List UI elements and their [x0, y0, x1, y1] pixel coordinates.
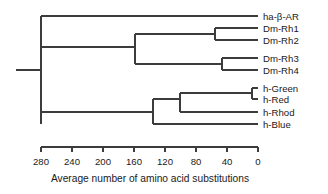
figure-container: ha-β-AR Dm-Rh1 Dm-Rh2 Dm-Rh3 Dm-Rh4 h-Gr… — [0, 0, 328, 194]
tick-label-40: 40 — [222, 156, 233, 167]
leaf-label-Dm-Rh4: Dm-Rh4 — [263, 65, 299, 76]
phylogenetic-tree: ha-β-AR Dm-Rh1 Dm-Rh2 Dm-Rh3 Dm-Rh4 h-Gr… — [0, 0, 328, 194]
leaf-label-h-Blue: h-Blue — [263, 119, 291, 130]
tree-branches — [16, 16, 258, 124]
x-axis-title: Average number of amino acid substitutio… — [51, 173, 249, 184]
x-axis — [41, 147, 258, 152]
leaf-label-h-Rhod: h-Rhod — [263, 107, 294, 118]
leaf-label-ha-beta-AR: ha-β-AR — [263, 11, 299, 22]
leaf-label-h-Red: h-Red — [263, 94, 289, 105]
leaf-label-Dm-Rh3: Dm-Rh3 — [263, 53, 299, 64]
tick-label-240: 240 — [64, 156, 80, 167]
tick-label-120: 120 — [157, 156, 173, 167]
tick-label-0: 0 — [255, 156, 260, 167]
tick-label-200: 200 — [95, 156, 111, 167]
tick-label-280: 280 — [33, 156, 49, 167]
x-axis-tick-labels: 280 240 200 160 120 80 40 0 — [33, 156, 261, 167]
tick-label-80: 80 — [191, 156, 202, 167]
leaf-label-Dm-Rh2: Dm-Rh2 — [263, 35, 299, 46]
leaf-label-h-Green: h-Green — [263, 83, 298, 94]
leaf-labels: ha-β-AR Dm-Rh1 Dm-Rh2 Dm-Rh3 Dm-Rh4 h-Gr… — [263, 11, 299, 130]
tick-label-160: 160 — [126, 156, 142, 167]
leaf-label-Dm-Rh1: Dm-Rh1 — [263, 23, 299, 34]
